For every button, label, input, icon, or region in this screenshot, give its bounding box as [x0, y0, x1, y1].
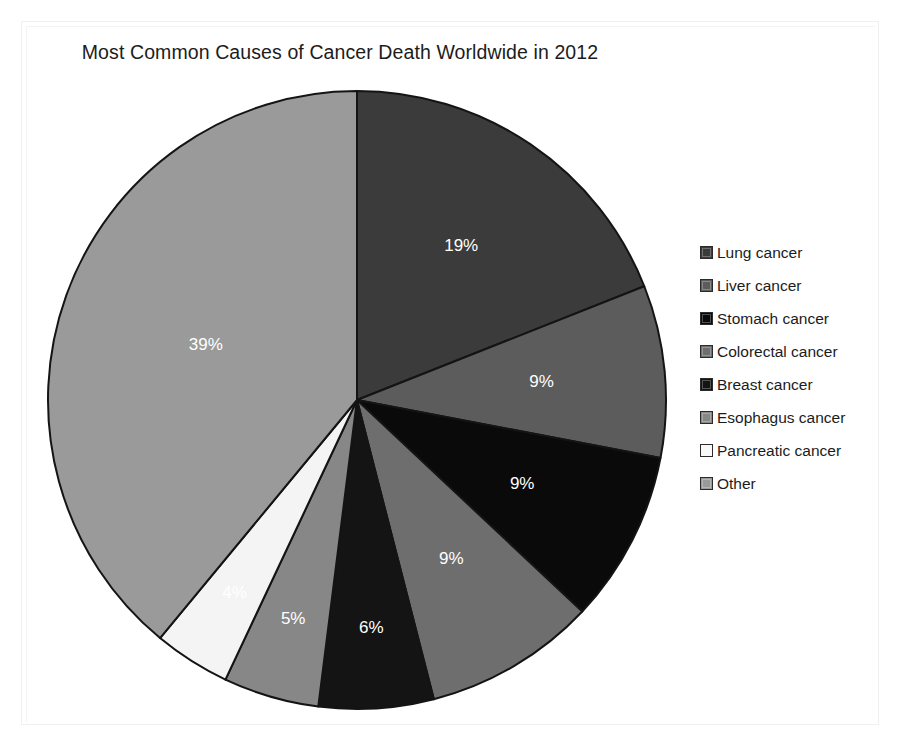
- pie-chart: 19%9%9%9%6%5%4%39%: [46, 89, 668, 711]
- legend-item[interactable]: Colorectal cancer: [700, 335, 885, 368]
- legend-swatch-icon: [700, 411, 713, 424]
- legend-swatch-icon: [700, 444, 713, 457]
- legend-swatch-icon: [700, 312, 713, 325]
- legend-item-label: Esophagus cancer: [717, 410, 845, 426]
- pie-slice-label: 9%: [510, 474, 535, 493]
- legend-item-label: Breast cancer: [717, 377, 813, 393]
- legend-item-label: Lung cancer: [717, 245, 802, 261]
- legend-item-label: Other: [717, 476, 756, 492]
- legend-swatch-icon: [700, 345, 713, 358]
- legend-item[interactable]: Stomach cancer: [700, 302, 885, 335]
- legend-item[interactable]: Breast cancer: [700, 368, 885, 401]
- pie-slice-label: 9%: [439, 549, 464, 568]
- pie-slice-label: 39%: [189, 335, 223, 354]
- chart-title: Most Common Causes of Cancer Death World…: [0, 41, 680, 64]
- pie-slice-label: 6%: [359, 618, 384, 637]
- legend-swatch-icon: [700, 246, 713, 259]
- legend-item[interactable]: Other: [700, 467, 885, 500]
- pie-slice-label: 9%: [529, 372, 554, 391]
- legend-item-label: Pancreatic cancer: [717, 443, 841, 459]
- legend-item-label: Colorectal cancer: [717, 344, 838, 360]
- legend-swatch-icon: [700, 378, 713, 391]
- chart-legend: Lung cancerLiver cancerStomach cancerCol…: [700, 236, 885, 500]
- legend-item[interactable]: Lung cancer: [700, 236, 885, 269]
- legend-item[interactable]: Esophagus cancer: [700, 401, 885, 434]
- pie-slice-label: 19%: [444, 236, 478, 255]
- pie-slice-group: [48, 91, 666, 709]
- pie-slice-label: 4%: [222, 583, 247, 602]
- legend-item-label: Liver cancer: [717, 278, 801, 294]
- legend-swatch-icon: [700, 477, 713, 490]
- chart-figure: Most Common Causes of Cancer Death World…: [0, 0, 897, 748]
- legend-swatch-icon: [700, 279, 713, 292]
- pie-slice-label: 5%: [281, 609, 306, 628]
- legend-item[interactable]: Liver cancer: [700, 269, 885, 302]
- pie-chart-svg: 19%9%9%9%6%5%4%39%: [46, 89, 668, 711]
- legend-item[interactable]: Pancreatic cancer: [700, 434, 885, 467]
- legend-item-label: Stomach cancer: [717, 311, 829, 327]
